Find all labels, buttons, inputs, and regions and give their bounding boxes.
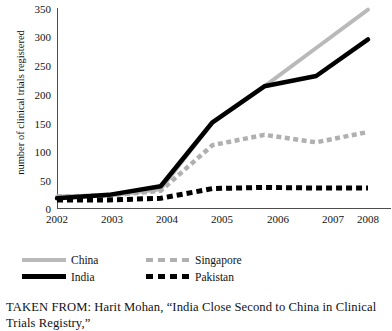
legend-row-2: India Pakistan [22,269,272,284]
legend-swatch-india-icon [22,274,66,279]
chart-legend: China Singapore India Pakistan [22,252,272,286]
legend-swatch-pakistan-icon [146,274,190,279]
legend-item-singapore: Singapore [146,252,242,267]
series-line-india [57,39,368,198]
legend-item-china: China [22,252,98,267]
legend-item-india: India [22,269,95,284]
caption-line-1: TAKEN FROM: Harit Mohan, “India Close Se… [6,300,376,314]
series-layer [0,0,392,240]
legend-label-pakistan: Pakistan [195,271,234,283]
chart-plot-region: number of clinical trials registered 350… [0,0,392,240]
legend-row-1: China Singapore [22,252,272,267]
figure-caption: TAKEN FROM: Harit Mohan, “India Close Se… [6,300,390,331]
legend-swatch-singapore-icon [146,258,190,262]
legend-label-china: China [71,254,98,266]
caption-line-2: Trials Registry,” [6,316,390,331]
series-line-china [57,10,368,197]
legend-label-singapore: Singapore [195,254,242,266]
legend-item-pakistan: Pakistan [146,269,234,284]
legend-label-india: India [71,271,95,283]
legend-swatch-china-icon [22,258,66,262]
